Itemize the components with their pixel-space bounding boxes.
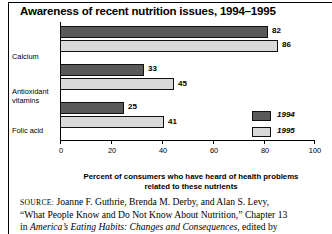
bar-antioxidant-1995	[60, 78, 174, 90]
source-line3-title: America’s Eating Habits: Changes and Con…	[30, 221, 237, 232]
bar-folic-1995	[60, 116, 164, 128]
bar-chart: Calcium Antioxidant vitamins Folic acid …	[0, 22, 332, 172]
x-tick-label-60: 60	[199, 146, 229, 155]
source-line3-pre: in	[20, 221, 30, 232]
bar-value-calcium-1994: 82	[272, 26, 281, 35]
x-tick-80	[264, 140, 265, 144]
source-line1: Joanne F. Guthrie, Brenda M. Derby, and …	[54, 196, 269, 207]
x-axis-title: Percent of consumers who have heard of h…	[60, 172, 322, 191]
source-line2: “What People Know and Do Not Know About …	[20, 209, 287, 220]
bar-calcium-1994	[60, 26, 268, 38]
x-tick-label-80: 80	[250, 146, 280, 155]
x-axis-line	[60, 140, 315, 141]
x-tick-label-100: 100	[300, 146, 330, 155]
top-rule	[8, 2, 332, 3]
source-line3-post: , edited by	[237, 221, 277, 232]
bar-value-antioxidant-1995: 45	[178, 79, 187, 88]
bar-value-folic-1995: 41	[168, 117, 177, 126]
bar-calcium-1995	[60, 40, 278, 52]
bar-value-antioxidant-1994: 33	[148, 64, 157, 73]
bar-folic-1994	[60, 102, 124, 114]
source-note: SOURCE: Joanne F. Guthrie, Brenda M. Der…	[20, 196, 328, 234]
x-tick-label-0: 0	[46, 146, 76, 155]
x-tick-label-20: 20	[97, 146, 127, 155]
x-axis-title-line1: Percent of consumers who have heard of h…	[84, 172, 299, 181]
x-tick-20	[111, 140, 112, 144]
source-label: SOURCE:	[20, 198, 54, 207]
bar-value-calcium-1995: 86	[282, 40, 291, 49]
x-axis-title-line2: related to these nutrients	[144, 182, 237, 191]
page-title: Awareness of recent nutrition issues, 19…	[20, 5, 320, 17]
legend-label-1995: 1995	[277, 126, 295, 135]
bar-value-folic-1994: 25	[128, 102, 137, 111]
legend-swatch-1994	[252, 111, 271, 121]
legend-label-1994: 1994	[277, 110, 295, 119]
x-tick-100	[314, 140, 315, 144]
x-tick-40	[162, 140, 163, 144]
bar-antioxidant-1994	[60, 64, 144, 76]
figure-panel: Awareness of recent nutrition issues, 19…	[0, 0, 332, 234]
x-tick-label-40: 40	[148, 146, 178, 155]
x-tick-0	[60, 140, 61, 144]
legend-swatch-1995	[252, 127, 271, 137]
x-tick-60	[213, 140, 214, 144]
